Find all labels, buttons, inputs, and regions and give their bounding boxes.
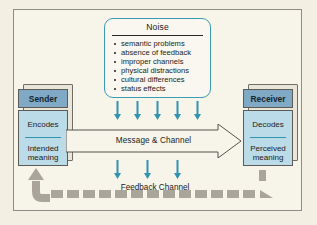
noise-down-arrow: [113, 101, 122, 120]
noise-item: status effects: [114, 84, 210, 93]
noise-item: cultural differences: [114, 75, 210, 84]
sender-detail-label: Intendedmeaning: [27, 144, 58, 163]
noise-down-arrow: [173, 101, 182, 120]
noise-down-arrow: [193, 101, 202, 120]
noise-divider: [112, 35, 203, 36]
noise-item: semantic problems: [114, 39, 210, 48]
noise-item: improper channels: [114, 57, 210, 66]
noise-item: physical distractions: [114, 66, 210, 75]
feedback-channel-arrow-icon: [28, 168, 283, 206]
noise-item: absence of feedback: [114, 48, 210, 57]
sender-body: Encodes Intendedmeaning: [18, 110, 68, 166]
sender-header: Sender: [18, 89, 68, 108]
receiver-divider: [250, 137, 286, 138]
noise-box: Noise semantic problems absence of feedb…: [104, 18, 211, 98]
noise-item-list: semantic problems absence of feedback im…: [105, 39, 210, 94]
sender-divider: [25, 137, 61, 138]
noise-title: Noise: [105, 22, 210, 32]
message-channel-label: Message & Channel: [66, 136, 241, 145]
sender-face: Sender Encodes Intendedmeaning: [18, 89, 68, 166]
noise-down-arrow: [153, 101, 162, 120]
diagram-canvas: Noise semantic problems absence of feedb…: [0, 0, 317, 225]
sender-step-label: Encodes: [27, 120, 58, 129]
receiver-body: Decodes Perceivedmeaning: [243, 110, 293, 166]
receiver-step-label: Decodes: [252, 120, 284, 129]
receiver-header: Receiver: [243, 89, 293, 108]
receiver-block: Receiver Decodes Perceivedmeaning: [243, 89, 293, 166]
receiver-detail-label: Perceivedmeaning: [250, 144, 286, 163]
sender-block: Sender Encodes Intendedmeaning: [18, 89, 68, 166]
receiver-face: Receiver Decodes Perceivedmeaning: [243, 89, 293, 166]
noise-down-arrow: [133, 101, 142, 120]
